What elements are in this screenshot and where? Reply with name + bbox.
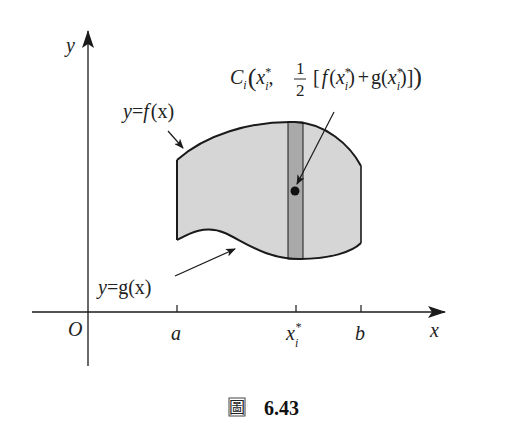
figure-canvas: y x O a x*i b y=f(x) y=g(x) Ci(x*i, 1 2 … [0, 0, 524, 429]
origin-label: O [68, 318, 82, 340]
f-curve-label: y=f(x) [121, 100, 174, 123]
caption-number: 6.43 [264, 397, 299, 419]
y-axis-label: y [64, 34, 75, 57]
midpoint-dot [291, 187, 300, 196]
arrow-to-f [168, 131, 183, 148]
g-curve-label: y=g(x) [96, 276, 152, 299]
fraction-numerator: 1 [296, 59, 305, 78]
point-ci-label-rest: [f(x*i)+g(x*i)]) [313, 62, 422, 93]
xi-sub: i [295, 336, 298, 350]
tick-label-a: a [171, 322, 181, 344]
tick-label-xi: x*i [285, 320, 301, 350]
tick-label-b: b [355, 322, 365, 344]
fraction-denominator: 2 [296, 81, 305, 100]
xi-sup: * [295, 320, 301, 334]
caption-char: 圖 [229, 399, 245, 416]
xi-base: x [285, 322, 295, 344]
arrow-to-g [175, 249, 235, 276]
x-axis-label: x [429, 319, 439, 341]
point-ci-label: Ci(x*i, [230, 63, 274, 93]
